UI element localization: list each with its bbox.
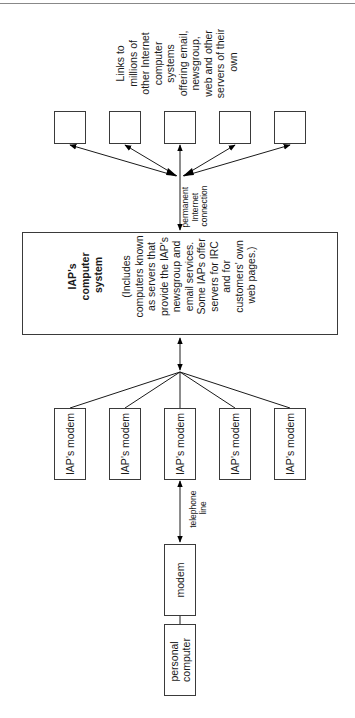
svg-text:IAP's modem: IAP's modem (64, 413, 76, 475)
svg-text:(Includes computers know: (Includes computers known as servers tha… (120, 232, 257, 317)
telephone-line-label: telephone line (188, 488, 208, 528)
iap-system-description: (Includes computers known as servers tha… (120, 232, 257, 317)
iap-modem: IAP's modem (55, 409, 86, 480)
internet-node-box (220, 112, 251, 144)
iap-modem: IAP's modem (110, 409, 141, 480)
iap-modem: IAP's modem (275, 409, 306, 480)
iap-modem: IAP's modem (165, 409, 196, 480)
permanent-connection-label: permanent Internet connection (180, 184, 209, 227)
svg-text:telephone line: telephone line (188, 488, 208, 528)
fanout-line (180, 372, 290, 408)
internet-node-box (165, 112, 196, 144)
user-modem: modem (165, 545, 196, 616)
internet-note: Links to millions of other Internet comp… (114, 26, 239, 98)
internet-node-box (55, 112, 86, 144)
internet-node-box (110, 112, 141, 144)
arrow-to-internet-node (184, 145, 290, 176)
svg-text:IAP's modem: IAP's modem (119, 413, 131, 475)
internet-note-line: Links to millions of other Internet comp… (114, 26, 239, 98)
fanout-line (180, 372, 235, 408)
svg-text:personal computer: personal computer (168, 638, 192, 682)
internet-node-box (275, 112, 306, 144)
personal-computer: personal computer (165, 625, 196, 696)
svg-text:IAP's modem: IAP's modem (229, 413, 241, 475)
hub-arrowhead-icon (183, 168, 194, 176)
svg-text:IAP's modem: IAP's modem (284, 413, 296, 475)
hub-arrowhead-icon (166, 168, 177, 176)
fanout-line (125, 372, 180, 408)
iap-modem: IAP's modem (220, 409, 251, 480)
svg-text:IAP's modem: IAP's modem (174, 413, 186, 475)
svg-text:permanent Internet: permanent Internet connection (180, 184, 209, 227)
svg-text:modem: modem (174, 562, 186, 597)
iap-connection-diagram: Links to millions of other Internet comp… (0, 0, 355, 718)
fanout-line (70, 372, 180, 408)
arrow-to-internet-node (70, 145, 176, 176)
